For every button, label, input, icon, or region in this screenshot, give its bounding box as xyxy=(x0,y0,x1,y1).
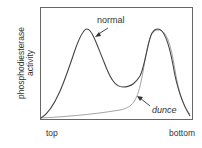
annotation-dunce: dunce xyxy=(152,105,177,115)
annotation-normal: normal xyxy=(97,15,125,25)
x-axis-label-bottom: bottom xyxy=(169,128,195,138)
annotation-dunce-arrow xyxy=(140,98,150,106)
chart: normal dunce phosphodiesterase activity … xyxy=(0,0,202,148)
y-axis-label-line2: activity xyxy=(25,49,35,76)
x-axis-label-top: top xyxy=(46,128,58,138)
